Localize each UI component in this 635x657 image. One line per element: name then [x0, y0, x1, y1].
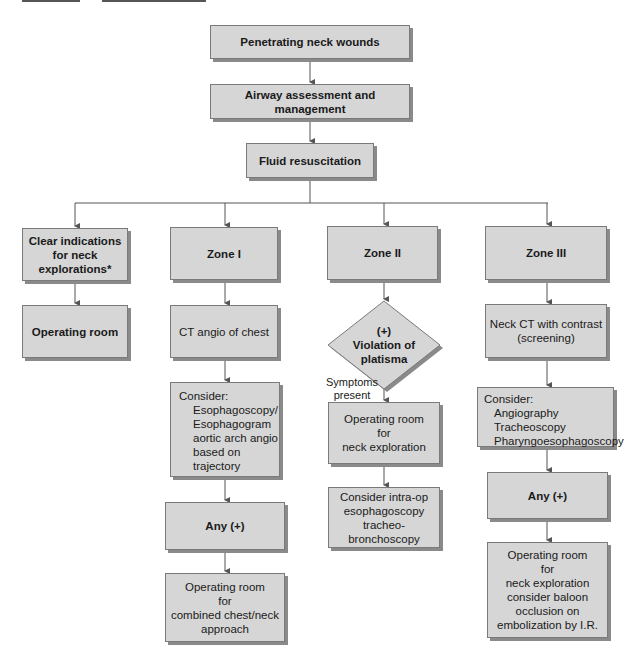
step-penetrating-neck-wounds: Penetrating neck wounds: [210, 25, 410, 59]
operating-room-box: Operating room: [22, 305, 128, 358]
zone-2-intraop-box: Consider intra-op esophagoscopy tracheo-…: [328, 487, 440, 548]
zone-3-consider-box: Consider: Angiography Tracheoscopy Phary…: [477, 387, 614, 447]
ct-angio-chest-box: CT angio of chest: [170, 305, 278, 358]
zone-1-any-positive-box: Any (+): [165, 502, 285, 550]
zone-1-box: Zone I: [170, 227, 278, 280]
zone-3-box: Zone III: [485, 226, 607, 280]
neck-ct-box: Neck CT with contrast (screening): [485, 304, 607, 358]
clear-indications-box: Clear indications for neck explorations*: [22, 228, 128, 281]
platisma-violation-decision: (+) Violation of platisma: [338, 324, 430, 366]
zone-2-box: Zone II: [327, 226, 438, 280]
symptoms-present-label: Symptoms present: [326, 376, 378, 402]
zone-2-operating-room-box: Operating room for neck exploration: [328, 402, 440, 464]
cropped-bar-left: [22, 0, 80, 2]
step-fluid-resuscitation: Fluid resuscitation: [246, 143, 374, 178]
zone-1-operating-room-box: Operating room for combined chest/neck a…: [165, 573, 285, 642]
zone-3-any-positive-box: Any (+): [487, 472, 608, 519]
zone-1-consider-box: Consider: Esophagoscopy/ Esophagogram ao…: [170, 382, 280, 477]
step-airway-assessment: Airway assessment and management: [210, 84, 410, 119]
zone-3-operating-room-box: Operating room for neck exploration cons…: [487, 542, 608, 638]
cropped-bar-right: [102, 0, 206, 2]
